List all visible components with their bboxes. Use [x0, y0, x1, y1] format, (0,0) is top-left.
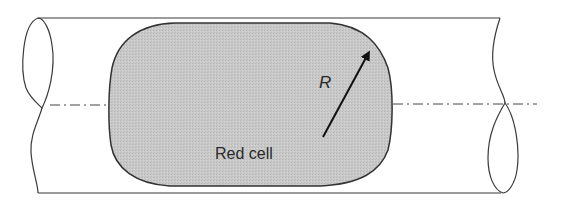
cell-label: Red cell [215, 145, 273, 162]
diagram-canvas: R Red cell [0, 0, 562, 204]
tube-left-end-wave [31, 108, 42, 193]
tube-right-end-loop [488, 103, 518, 193]
tube-right-end-wave [493, 18, 505, 103]
tube-left-end-loop [23, 18, 53, 108]
radius-label: R [319, 73, 331, 92]
